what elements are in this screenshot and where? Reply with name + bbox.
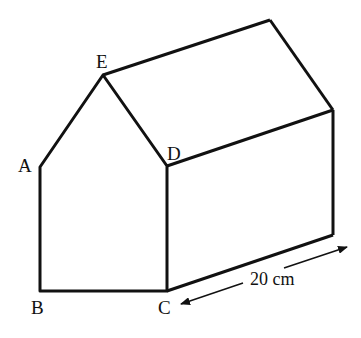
dimension-arrow-right [284, 247, 347, 268]
vertex-label-C: C [158, 297, 171, 318]
edge-D-back [167, 110, 333, 166]
vertex-label-A: A [18, 155, 32, 176]
prism-diagram: E A D B C 20 cm [0, 0, 361, 338]
vertex-label-D: D [167, 143, 181, 164]
dimension-arrow-left [181, 283, 243, 304]
vertex-label-E: E [96, 51, 108, 72]
edge-E-back [103, 20, 270, 75]
front-face-pentagon [40, 75, 167, 291]
dimension-label: 20 cm [250, 269, 295, 289]
vertex-label-B: B [31, 297, 44, 318]
edge-back-roof [270, 20, 333, 110]
